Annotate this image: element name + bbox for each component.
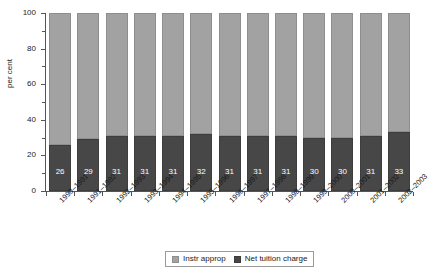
y-tick-40 — [41, 120, 45, 121]
bar-column[interactable]: 30 — [303, 13, 325, 191]
bar-column[interactable]: 32 — [190, 13, 212, 191]
bar-segment-instr-approp[interactable] — [275, 13, 297, 136]
legend-label: Instr approp — [183, 255, 226, 263]
y-tick-label-60: 60 — [14, 80, 36, 88]
bar-column[interactable]: 31 — [106, 13, 128, 191]
y-tick-minor-10 — [42, 173, 45, 174]
y-tick-100 — [41, 13, 45, 14]
plot-area: 26293131313231313130303133 — [46, 13, 413, 191]
bar-column[interactable]: 31 — [134, 13, 156, 191]
y-axis-title: per cent — [5, 59, 14, 88]
bar-column[interactable]: 26 — [49, 13, 71, 191]
bar-segment-instr-approp[interactable] — [162, 13, 184, 136]
bar-column[interactable]: 31 — [247, 13, 269, 191]
y-tick-60 — [41, 84, 45, 85]
bar-column[interactable]: 31 — [162, 13, 184, 191]
bar-value-label: 26 — [50, 168, 70, 176]
y-tick-minor-90 — [42, 31, 45, 32]
bar-segment-instr-approp[interactable] — [331, 13, 353, 138]
x-tick — [46, 192, 47, 196]
bar-segment-instr-approp[interactable] — [388, 13, 410, 132]
y-tick-80 — [41, 49, 45, 50]
bar-column[interactable]: 31 — [360, 13, 382, 191]
y-tick-label-20: 20 — [14, 151, 36, 159]
y-tick-20 — [41, 155, 45, 156]
y-tick-minor-50 — [42, 102, 45, 103]
y-tick-label-100: 100 — [14, 9, 36, 17]
y-tick-label-0: 0 — [14, 187, 36, 195]
bar-segment-instr-approp[interactable] — [49, 13, 71, 145]
bar-segment-net-tuition-charge[interactable]: 26 — [49, 145, 71, 191]
bar-segment-instr-approp[interactable] — [106, 13, 128, 136]
legend-label: Net tuition charge — [245, 255, 308, 263]
y-tick-minor-30 — [42, 138, 45, 139]
legend-swatch-icon — [234, 256, 241, 263]
bar-column[interactable]: 31 — [219, 13, 241, 191]
y-tick-0 — [41, 191, 45, 192]
bar-column[interactable]: 33 — [388, 13, 410, 191]
bar-segment-instr-approp[interactable] — [77, 13, 99, 139]
chart-legend: Instr appropNet tuition charge — [165, 251, 314, 267]
y-tick-label-80: 80 — [14, 45, 36, 53]
y-tick-minor-70 — [42, 66, 45, 67]
legend-item[interactable]: Net tuition charge — [234, 255, 308, 263]
bar-segment-instr-approp[interactable] — [219, 13, 241, 136]
bar-segment-instr-approp[interactable] — [247, 13, 269, 136]
bar-column[interactable]: 30 — [331, 13, 353, 191]
bar-segment-instr-approp[interactable] — [190, 13, 212, 134]
bar-column[interactable]: 29 — [77, 13, 99, 191]
legend-item[interactable]: Instr approp — [172, 255, 226, 263]
bar-segment-instr-approp[interactable] — [303, 13, 325, 138]
bar-column[interactable]: 31 — [275, 13, 297, 191]
bar-segment-instr-approp[interactable] — [360, 13, 382, 136]
bar-segment-instr-approp[interactable] — [134, 13, 156, 136]
y-tick-label-40: 40 — [14, 116, 36, 124]
legend-swatch-icon — [172, 256, 179, 263]
